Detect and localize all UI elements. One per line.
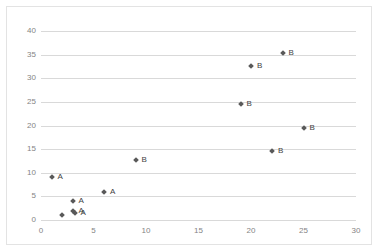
data-point-a-0 (49, 175, 55, 181)
y-tick-label-20: 20 (27, 122, 36, 130)
data-point-label-b-1: B (247, 100, 252, 108)
gridline-y-35 (41, 55, 356, 56)
y-tick-label-5: 5 (32, 192, 36, 200)
x-tick-label-0: 0 (39, 227, 43, 235)
data-point-b-5 (301, 125, 307, 131)
gridline-y-10 (41, 173, 356, 174)
x-tick-label-25: 25 (299, 227, 308, 235)
data-point-label-a-0: A (58, 173, 63, 181)
data-point-label-b-2: B (257, 62, 262, 70)
y-tick-label-25: 25 (27, 98, 36, 106)
data-point-label-b-4: B (289, 49, 294, 57)
gridline-y-0 (41, 220, 356, 221)
y-tick-label-15: 15 (27, 145, 36, 153)
data-point-label-b-0: B (142, 156, 147, 164)
data-point-b-2 (248, 64, 254, 70)
data-point-b-1 (238, 101, 244, 107)
y-tick-label-40: 40 (27, 27, 36, 35)
gridline-y-15 (41, 149, 356, 150)
data-point-label-a-1: A (110, 188, 115, 196)
plot-area: 0510152025303540 051015202530 AAAAABBBBB… (41, 31, 356, 220)
data-point-a-4 (72, 210, 78, 216)
x-tick-label-30: 30 (352, 227, 361, 235)
x-tick-label-10: 10 (142, 227, 151, 235)
y-tick-label-35: 35 (27, 51, 36, 59)
y-tick-label-10: 10 (27, 169, 36, 177)
data-point-b-0 (133, 157, 139, 163)
x-tick-label-20: 20 (247, 227, 256, 235)
data-point-label-a-4: A (81, 209, 86, 217)
y-tick-label-0: 0 (32, 216, 36, 224)
data-point-a-5 (59, 212, 65, 218)
chart-frame: 0510152025303540 051015202530 AAAAABBBBB… (6, 6, 372, 245)
gridline-y-40 (41, 31, 356, 32)
data-point-label-b-3: B (278, 147, 283, 155)
data-point-a-2 (70, 198, 76, 204)
data-point-a-1 (101, 189, 107, 195)
gridline-y-30 (41, 78, 356, 79)
data-point-label-b-5: B (310, 124, 315, 132)
data-point-label-a-2: A (79, 197, 84, 205)
gridline-y-5 (41, 196, 356, 197)
x-tick-label-15: 15 (194, 227, 203, 235)
scatter-chart-screenshot: 0510152025303540 051015202530 AAAAABBBBB… (0, 0, 378, 251)
gridline-y-25 (41, 102, 356, 103)
y-tick-label-30: 30 (27, 74, 36, 82)
data-point-b-3 (269, 149, 275, 155)
x-tick-label-5: 5 (91, 227, 95, 235)
